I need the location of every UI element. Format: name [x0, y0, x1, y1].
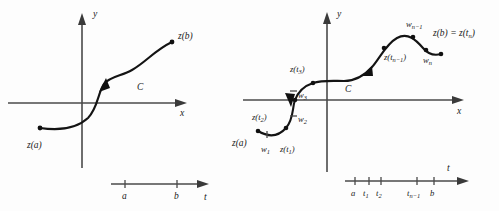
right-t-label-b: b	[430, 188, 435, 198]
left-t-tick-label-a: a	[122, 191, 127, 201]
right-panel: y x z(a) w1 z(t1)	[231, 8, 475, 199]
left-start-label: z(a)	[26, 140, 42, 151]
right-w1-label: w1	[261, 144, 270, 155]
right-w3-label: w3	[298, 90, 307, 101]
right-node-mid	[382, 46, 387, 51]
left-t-tick-label-b: b	[174, 191, 179, 201]
figure-canvas: y x z(a) z(b) C a b t	[0, 0, 499, 211]
right-zt3-label: z(t3)	[289, 64, 305, 75]
right-node-n	[424, 48, 429, 53]
right-y-axis-label: y	[336, 8, 342, 19]
right-node-3	[311, 81, 316, 86]
right-start-label: z(a)	[231, 138, 247, 149]
right-zt2-label: z(t2)	[251, 112, 267, 123]
right-t-axis-label: t	[447, 162, 450, 173]
left-curve-label: C	[137, 82, 144, 92]
right-t-label-t2: t2	[376, 188, 382, 199]
right-wn-label: wn	[423, 55, 432, 66]
right-node-end	[439, 52, 444, 57]
left-panel: y x z(a) z(b) C a b t	[8, 8, 209, 202]
right-x-axis	[243, 96, 464, 104]
right-zt1-label: z(t1)	[279, 144, 295, 155]
right-end-label: z(b) = z(tn)	[432, 28, 475, 39]
left-x-axis-label: x	[179, 107, 185, 118]
right-node-start	[256, 129, 261, 134]
figure-container: y x z(a) z(b) C a b t	[0, 0, 499, 211]
right-t-axis	[345, 177, 469, 185]
left-end-label: z(b)	[177, 31, 193, 42]
left-start-point	[38, 126, 43, 131]
left-t-axis-label: t	[204, 191, 207, 202]
left-y-axis	[78, 13, 86, 168]
right-x-axis-label: x	[456, 105, 462, 116]
right-t-label-t1: t1	[363, 188, 369, 199]
right-wn-minus-1-label: wn−1	[406, 19, 422, 30]
right-node-1	[284, 126, 289, 131]
right-t-label-a: a	[351, 188, 355, 198]
right-w2-label: w2	[298, 114, 308, 125]
right-curve-label: C	[345, 84, 352, 94]
right-node-2	[293, 98, 298, 103]
right-t-label-tn-minus-1: tn−1	[407, 188, 420, 199]
right-node-n-minus-1	[411, 35, 416, 40]
right-ztn-minus-1-label: z(tn−1)	[383, 52, 406, 63]
right-direction-arrow-2	[362, 66, 373, 76]
left-t-axis	[111, 180, 209, 188]
left-end-point	[170, 40, 175, 45]
left-y-axis-label: y	[92, 8, 98, 19]
right-y-axis	[323, 12, 331, 172]
